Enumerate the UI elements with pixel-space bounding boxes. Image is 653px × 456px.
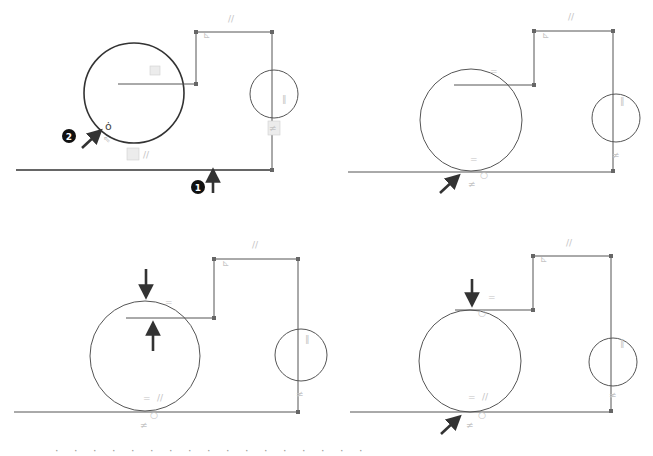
svg-text:○: ○ (150, 410, 158, 420)
svg-text://: // (482, 392, 489, 402)
svg-text:‖: ‖ (305, 334, 310, 344)
small-circle (589, 338, 637, 386)
parallel-glyph: // (228, 14, 235, 24)
small-circle (250, 70, 298, 118)
svg-text:≠: ≠ (468, 179, 476, 189)
svg-text://: // (566, 238, 573, 248)
large-circle (84, 43, 184, 143)
panel-bottom-right: // ⊾ = ○ = // ○ ≠ ‖ ≠ (350, 238, 637, 434)
arrow-tangent-bottom (441, 420, 456, 434)
svg-text:○: ○ (478, 410, 486, 420)
svg-text:=: = (470, 154, 478, 164)
svg-text:≠: ≠ (140, 420, 148, 430)
small-circle (592, 94, 640, 142)
panel-top-left: // ⊾ ≠ ‖ // ȯ ⇖ 2 1 (16, 14, 298, 194)
svg-text://: // (157, 393, 164, 403)
panel-bottom-left: // ⊾ = = // ○ ≠ ‖ ≠ (14, 240, 327, 430)
caption-cutoff: · · · · · · · · · · · · · · · · · (55, 444, 368, 456)
svg-text:‖: ‖ (620, 96, 625, 106)
svg-text:⊾: ⊾ (540, 254, 548, 264)
svg-text:○: ○ (478, 308, 486, 318)
arrow-2 (82, 134, 97, 148)
svg-text:≠: ≠ (612, 150, 620, 160)
svg-text:=: = (490, 66, 498, 76)
svg-text://: // (568, 12, 575, 22)
svg-text://: // (252, 240, 259, 250)
svg-text:≠: ≠ (466, 420, 474, 430)
svg-text:⊾: ⊾ (222, 258, 230, 268)
panel-top-right: // ⊾ = = ○ ≠ ‖ ≠ (348, 12, 640, 193)
small-circle (275, 329, 327, 381)
svg-text:≠: ≠ (296, 389, 304, 399)
svg-text:≠: ≠ (609, 390, 617, 400)
perpendicular-glyph: ⊾ (203, 30, 211, 40)
svg-text:=: = (143, 393, 151, 403)
svg-text:=: = (468, 392, 476, 402)
svg-text:‖: ‖ (620, 338, 625, 348)
svg-text:⊾: ⊾ (542, 30, 550, 40)
svg-text:○: ○ (480, 170, 488, 180)
svg-text:=: = (165, 297, 173, 307)
tangent-cursor-glyph: ȯ (105, 120, 112, 133)
svg-text://: // (143, 150, 150, 160)
svg-text:‖: ‖ (282, 94, 287, 104)
svg-text:2: 2 (66, 132, 72, 142)
svg-text:=: = (488, 292, 496, 302)
svg-text:1: 1 (195, 183, 201, 193)
mouse-pointer-icon: ⇖ (103, 134, 111, 144)
svg-text:≠: ≠ (269, 123, 277, 133)
arrow-tangent-point (440, 179, 455, 193)
